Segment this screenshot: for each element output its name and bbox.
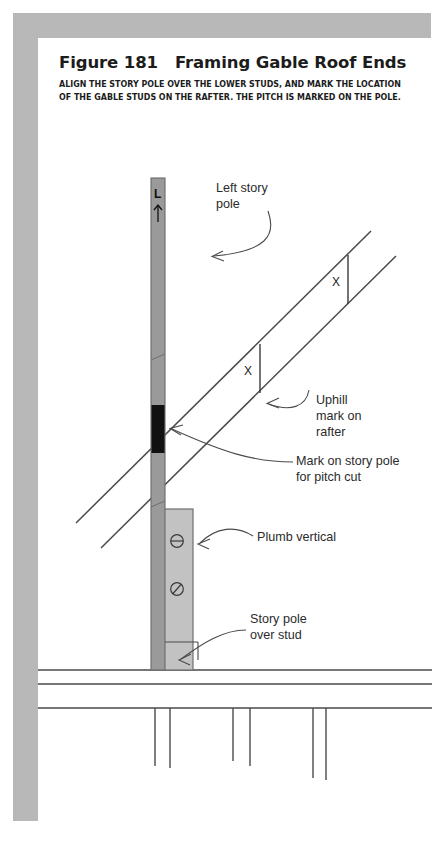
- figure-page: Figure 181 Framing Gable Roof Ends ALIGN…: [0, 0, 444, 851]
- label-story-pole-over-stud: Story pole over stud: [250, 611, 307, 643]
- label-plumb-vertical: Plumb vertical: [257, 529, 336, 545]
- rafter-mark-lower: X: [244, 344, 260, 393]
- page-inner-white: Figure 181 Framing Gable Roof Ends ALIGN…: [38, 38, 432, 822]
- story-pole-lower-wide: [163, 509, 193, 670]
- label-left-story-pole: Left story pole: [216, 180, 268, 212]
- wall-top-plate: [38, 670, 432, 708]
- leader-plumb-vertical: [198, 529, 253, 549]
- rafter-mark-upper-label: X: [332, 275, 340, 289]
- wall-studs: [155, 708, 326, 780]
- pitch-cut-mark: [152, 405, 165, 453]
- story-pole-lower-body: [163, 509, 193, 670]
- label-mark-pitch-cut: Mark on story pole for pitch cut: [296, 453, 400, 485]
- leader-left-story-pole: [212, 211, 271, 261]
- leader-uphill-mark: [267, 390, 309, 408]
- figure-content: Figure 181 Framing Gable Roof Ends ALIGN…: [38, 38, 432, 822]
- pole-letter-l: L: [154, 187, 161, 201]
- framing-diagram: X X: [38, 38, 432, 822]
- page-border-frame: Figure 181 Framing Gable Roof Ends ALIGN…: [13, 13, 431, 821]
- label-uphill-mark: Uphill mark on rafter: [316, 392, 362, 440]
- leader-pitch-cut: [170, 425, 293, 462]
- rafter-mark-lower-label: X: [244, 364, 252, 378]
